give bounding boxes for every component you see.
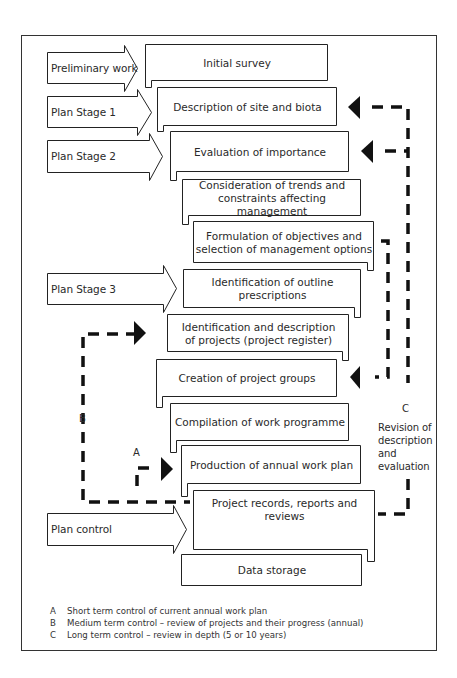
arrowhead-b-project-register [134,321,146,345]
stage-label-stage2: Plan Stage 2 [51,150,116,163]
legend: A Short term control of current annual w… [50,605,363,641]
step-text-line: Formulation of objectives and [206,230,362,243]
loop-c-note-line: evaluation [378,460,433,473]
arrowhead-inner-project-groups [350,366,360,389]
loop-c-lower [378,479,408,514]
stage-label-preliminary: Preliminary work [51,62,137,75]
loop-a-line [137,468,152,486]
legend-item-c: C Long term control – review in depth (5… [50,629,363,641]
stage-label-plan-control: Plan control [51,523,112,536]
loop-c-label: C [402,402,409,415]
step-text-consideration: Consideration of trends and constraints … [183,180,361,216]
stage-label-stage3: Plan Stage 3 [51,283,116,296]
step-text-work-programme: Compilation of work programme [171,404,349,441]
step-text-evaluation: Evaluation of importance [171,132,349,172]
step-text-data-storage: Data storage [182,555,362,586]
step-text-project-records: Project records, reports and reviews [194,491,375,529]
loop-b-label: B [79,412,86,425]
step-text-outline-prescriptions: Identification of outline prescriptions [184,270,361,308]
step-text-description: Description of site and biota [158,88,337,126]
step-text-line: Identification and description [182,321,336,334]
step-text-line: of projects (project register) [185,334,332,347]
step-text-annual-work-plan: Production of annual work plan [182,446,361,484]
loop-a-label: A [133,446,140,459]
legend-key: C [50,629,67,641]
step-text-line: selection of management options [196,243,372,256]
loop-inner-line [375,241,388,377]
stage-label-stage1: Plan Stage 1 [51,106,116,119]
arrowhead-a-annual-work-plan [161,457,173,481]
loop-c-note: Revision of description and evaluation [378,421,433,473]
loop-c-line [372,107,408,383]
legend-key: B [50,617,67,629]
legend-text: Medium term control – review of projects… [67,617,363,629]
arrowhead-c-evaluation [361,140,373,163]
legend-key: A [50,605,67,617]
step-text-project-register: Identification and description of projec… [168,315,349,352]
step-text-formulation: Formulation of objectives and selection … [194,222,374,263]
legend-item-b: B Medium term control – review of projec… [50,617,363,629]
loop-c-note-line: Revision of [378,421,433,434]
legend-text: Short term control of current annual wor… [67,605,267,617]
arrowhead-c-description [348,96,360,119]
step-text-initial-survey: Initial survey [146,45,328,81]
loop-c-note-line: description [378,434,433,447]
step-text-project-groups: Creation of project groups [157,360,337,397]
legend-text: Long term control – review in depth (5 o… [67,629,286,641]
step-text-line: constraints affecting management [183,192,361,218]
legend-item-a: A Short term control of current annual w… [50,605,363,617]
loop-c-note-line: and [378,447,433,460]
step-text-line: Consideration of trends and [199,179,345,192]
